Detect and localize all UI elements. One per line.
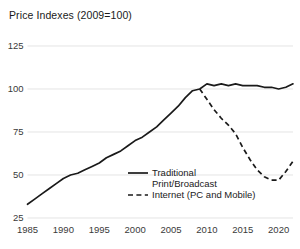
y-axis-tick-label: 50 [13, 169, 24, 180]
chart-figure: Price Indexes (2009=100) 255075100125 19… [0, 0, 300, 249]
y-axis-tick-label: 75 [13, 126, 24, 137]
y-axis-tick-label: 125 [8, 40, 24, 51]
legend-label-continued: Print/Broadcast [152, 178, 217, 189]
chart-legend: TraditionalPrint/BroadcastInternet (PC a… [128, 167, 256, 200]
x-axis-tick-label: 2000 [125, 224, 146, 235]
x-axis-tick-label: 2010 [196, 224, 217, 235]
x-axis-tick-label: 2005 [160, 224, 181, 235]
legend-label: Traditional [152, 167, 196, 178]
line-chart-canvas: 255075100125 198519901995200020052010201… [0, 0, 300, 249]
y-axis-tick-label: 100 [8, 83, 24, 94]
series-line-dashed [200, 89, 293, 180]
x-axis-tick-label: 2015 [232, 224, 253, 235]
legend-label: Internet (PC and Mobile) [152, 189, 256, 200]
x-axis-tick-label: 1990 [53, 224, 74, 235]
x-axis-tick-label: 1995 [89, 224, 110, 235]
y-axis-tick-labels: 255075100125 [8, 40, 24, 223]
x-axis-tick-label: 1985 [17, 224, 38, 235]
y-axis-tick-label: 25 [13, 212, 24, 223]
x-axis-tick-label: 2020 [268, 224, 289, 235]
x-axis-tick-labels: 19851990199520002005201020152020 [17, 224, 289, 235]
